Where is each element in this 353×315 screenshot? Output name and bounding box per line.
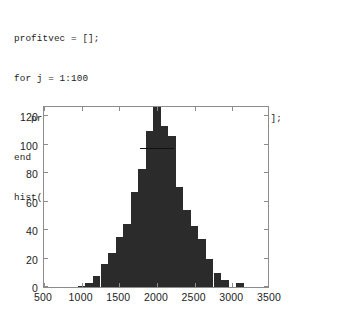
code-line: for j = 1:100 (14, 72, 344, 85)
x-tick (232, 283, 233, 287)
y-tick (264, 229, 268, 230)
histogram-bars (44, 107, 268, 287)
histogram-bar (85, 283, 93, 287)
x-tick (82, 283, 83, 287)
histogram-bar (191, 226, 199, 287)
code-line: profitvec = []; (14, 32, 344, 45)
histogram-bar (108, 253, 116, 287)
histogram-bar (116, 237, 124, 287)
y-tick-label: 0 (38, 282, 44, 294)
y-tick (264, 144, 268, 145)
y-tick (264, 201, 268, 202)
x-tick (119, 107, 120, 111)
histogram-bar (176, 187, 184, 287)
histogram-bar (183, 210, 191, 287)
y-tick (264, 115, 268, 116)
y-tick (264, 286, 268, 287)
plot-axes-box (43, 106, 269, 288)
histogram-bar (221, 280, 229, 287)
histogram-bar (93, 276, 101, 287)
y-tick-label: 40 (38, 225, 50, 237)
histogram-bar (138, 169, 146, 287)
y-tick (44, 286, 48, 287)
histogram-bar (161, 126, 169, 287)
histogram-bar (131, 192, 139, 287)
histogram-bar (214, 273, 222, 287)
histogram-bar (206, 259, 214, 287)
histogram-bar (101, 264, 109, 287)
x-tick (82, 107, 83, 111)
x-tick (195, 107, 196, 111)
figure-page: profitvec = []; for j = 1:100 profitvec … (0, 0, 353, 315)
x-tick (195, 283, 196, 287)
histogram-bar (236, 283, 244, 287)
y-tick (264, 258, 268, 259)
x-tick (232, 107, 233, 111)
histogram-bar (153, 106, 161, 287)
x-tick (157, 107, 158, 111)
x-tick-label: 1500 (106, 291, 130, 303)
y-tick-label: 100 (38, 140, 56, 152)
x-tick-label: 3500 (257, 291, 281, 303)
histogram-bar (168, 136, 176, 287)
y-tick-label: 80 (38, 168, 50, 180)
x-tick (157, 283, 158, 287)
x-tick-label: 3000 (219, 291, 243, 303)
y-tick-label: 20 (38, 254, 50, 266)
histogram-figure: 500100015002000250030003500 020406080100… (0, 96, 353, 315)
x-tick-label: 2000 (144, 291, 168, 303)
peak-artifact-line (140, 148, 174, 149)
y-tick (264, 172, 268, 173)
y-tick-label: 120 (38, 111, 56, 123)
x-tick-label: 2500 (182, 291, 206, 303)
x-tick-label: 1000 (69, 291, 93, 303)
y-tick-label: 60 (38, 197, 50, 209)
histogram-bar (146, 131, 154, 287)
histogram-bar (123, 224, 131, 287)
histogram-bar (198, 239, 206, 287)
x-tick (119, 283, 120, 287)
